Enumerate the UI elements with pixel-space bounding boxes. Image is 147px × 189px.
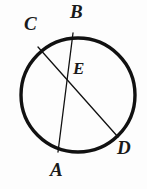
vertex-label-b: B: [70, 2, 83, 21]
chord-ab-line: [58, 33, 73, 152]
geometry-figure: B C E A D: [0, 0, 147, 189]
vertex-label-d: D: [117, 138, 131, 157]
circle-outline: [21, 38, 135, 152]
vertex-label-e: E: [73, 60, 84, 77]
vertex-label-c: C: [24, 14, 37, 33]
geometry-canvas: [0, 0, 147, 189]
vertex-label-a: A: [50, 160, 63, 179]
